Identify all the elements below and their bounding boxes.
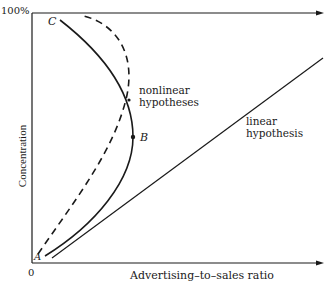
point-a-label: A xyxy=(34,252,41,262)
top-arrowhead-icon xyxy=(316,11,324,16)
solid-nonlinear-curve xyxy=(45,20,133,256)
x-arrowhead-icon xyxy=(316,261,324,266)
point-b-label: B xyxy=(140,132,148,143)
x-axis-label: Advertising–to–sales ratio xyxy=(130,270,274,281)
linear-label-line2: hypothesis xyxy=(246,128,303,139)
diagram-figure: 100% 0 Advertising–to–sales ratio Concen… xyxy=(0,0,327,283)
nonlinear-label-line2: hypotheses xyxy=(139,97,199,108)
linear-label-line1: linear xyxy=(246,116,277,127)
diagram-canvas xyxy=(0,0,327,283)
nonlinear-label-line1: nonlinear xyxy=(139,85,190,96)
point-c-label: C xyxy=(48,16,56,27)
x-axis-origin-label: 0 xyxy=(28,268,34,278)
y-axis-label: Concentration xyxy=(16,116,28,196)
intersection-marker xyxy=(127,98,130,101)
y-axis-top-tick: 100% xyxy=(1,6,30,16)
dashed-nonlinear-curve xyxy=(38,16,129,254)
point-b-marker xyxy=(131,135,135,139)
